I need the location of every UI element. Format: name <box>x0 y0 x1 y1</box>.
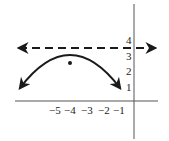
x-tick-label: −4 <box>64 104 76 116</box>
point-dot <box>68 61 72 65</box>
x-tick-label: −3 <box>81 104 93 116</box>
y-tick-label: 1 <box>126 81 132 93</box>
y-tick-label: 3 <box>126 50 132 62</box>
graph-canvas: 4 3 2 1 −5 −4 −3 −2 −1 <box>0 0 169 141</box>
x-tick-label: −1 <box>113 104 125 116</box>
x-tick-label: −2 <box>98 104 110 116</box>
x-tick-label: −5 <box>49 104 61 116</box>
parabola-curve <box>20 55 120 88</box>
y-tick-label: 4 <box>126 34 132 46</box>
y-tick-label: 2 <box>126 65 132 77</box>
